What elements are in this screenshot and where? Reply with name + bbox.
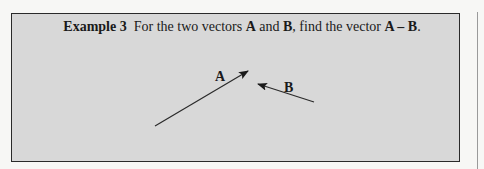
vector-a-label: A (215, 69, 226, 84)
vector-figure: A B (0, 0, 484, 169)
vector-b-label: B (284, 80, 293, 95)
vector-a-arrow (155, 71, 248, 126)
